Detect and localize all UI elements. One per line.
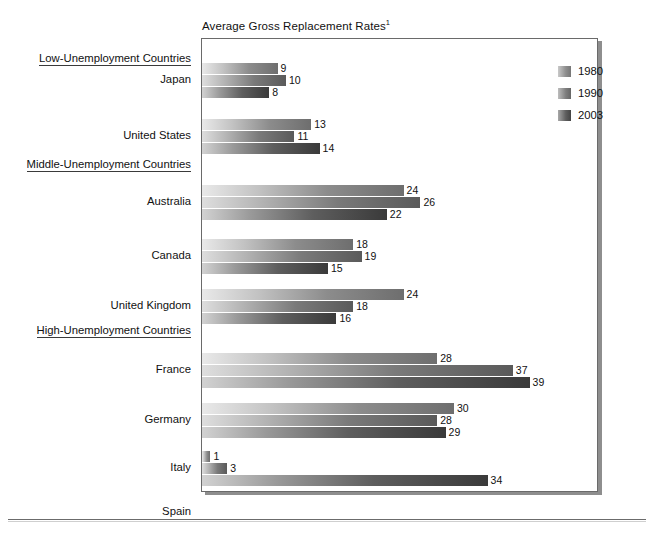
bar-value-germany-2003: 29 bbox=[446, 427, 461, 438]
bar-italy-2003 bbox=[202, 475, 488, 486]
category-label-canada: Canada bbox=[151, 249, 191, 261]
bar-value-italy-1980: 1 bbox=[210, 451, 219, 462]
bar-japan-1990 bbox=[202, 75, 286, 86]
bar-value-australia-2003: 22 bbox=[387, 209, 402, 220]
bar-value-france-1980: 28 bbox=[437, 353, 452, 364]
series-swatch-2003 bbox=[558, 110, 571, 121]
bar-germany-1980 bbox=[202, 403, 454, 414]
chart-legend: 198019902003 bbox=[558, 60, 630, 126]
bar-france-2003 bbox=[202, 377, 530, 388]
series-swatch-1990 bbox=[558, 88, 571, 99]
bar-united-states-1990 bbox=[202, 131, 294, 142]
bar-value-germany-1980: 30 bbox=[454, 403, 469, 414]
bar-value-germany-1990: 28 bbox=[437, 415, 452, 426]
chart-title: Average Gross Replacement Rates1 bbox=[202, 20, 390, 32]
group-label-2: Middle-Unemployment Countries bbox=[27, 158, 192, 172]
legend-item-1980[interactable]: 1980 bbox=[558, 60, 630, 82]
bar-value-italy-2003: 34 bbox=[488, 475, 503, 486]
bar-value-canada-1990: 19 bbox=[362, 251, 377, 262]
bar-canada-1980 bbox=[202, 239, 353, 250]
bar-italy-1990 bbox=[202, 463, 227, 474]
footer-divider-highlight bbox=[8, 521, 646, 522]
group-label-1: Low-Unemployment Countries bbox=[39, 52, 191, 66]
chart-title-text: Average Gross Replacement Rates bbox=[202, 20, 386, 32]
bar-united-states-2003 bbox=[202, 143, 320, 154]
bar-united-kingdom-1980 bbox=[202, 289, 404, 300]
bar-value-italy-1990: 3 bbox=[227, 463, 236, 474]
plot-area: 9108131114242622181915241816283739302829… bbox=[201, 38, 598, 492]
bar-france-1990 bbox=[202, 365, 513, 376]
bar-united-states-1980 bbox=[202, 119, 311, 130]
bar-value-france-2003: 39 bbox=[530, 377, 545, 388]
legend-item-2003[interactable]: 2003 bbox=[558, 104, 630, 126]
category-label-japan: Japan bbox=[160, 73, 191, 85]
legend-item-1990[interactable]: 1990 bbox=[558, 82, 630, 104]
bar-australia-1990 bbox=[202, 197, 420, 208]
bar-value-united-states-1980: 13 bbox=[311, 119, 326, 130]
bar-value-japan-1980: 9 bbox=[278, 63, 287, 74]
bar-canada-1990 bbox=[202, 251, 362, 262]
bar-value-united-kingdom-1990: 18 bbox=[353, 301, 368, 312]
bar-value-united-kingdom-2003: 16 bbox=[336, 313, 351, 324]
category-label-italy: Italy bbox=[170, 461, 191, 473]
chart-title-footnote-marker: 1 bbox=[386, 18, 390, 27]
bar-japan-1980 bbox=[202, 63, 278, 74]
category-label-column: Low-Unemployment CountriesMiddle-Unemplo… bbox=[0, 38, 196, 492]
bar-united-kingdom-1990 bbox=[202, 301, 353, 312]
bar-value-japan-1990: 10 bbox=[286, 75, 301, 86]
bar-united-kingdom-2003 bbox=[202, 313, 336, 324]
group-label-3: High-Unemployment Countries bbox=[37, 324, 191, 338]
bar-value-japan-2003: 8 bbox=[269, 87, 278, 98]
legend-label-1980: 1980 bbox=[578, 65, 603, 77]
category-label-france: France bbox=[156, 363, 191, 375]
bar-germany-1990 bbox=[202, 415, 437, 426]
chart-page: Average Gross Replacement Rates1 9108131… bbox=[0, 0, 654, 546]
bar-value-united-kingdom-1980: 24 bbox=[404, 289, 419, 300]
footer-divider bbox=[8, 519, 646, 520]
category-label-united-kingdom: United Kingdom bbox=[111, 299, 191, 311]
category-label-united-states: United States bbox=[123, 129, 191, 141]
bar-value-canada-2003: 15 bbox=[328, 263, 343, 274]
bar-canada-2003 bbox=[202, 263, 328, 274]
series-swatch-1980 bbox=[558, 66, 571, 77]
category-label-germany: Germany bbox=[145, 413, 191, 425]
bar-italy-1980 bbox=[202, 451, 210, 462]
bar-value-canada-1980: 18 bbox=[353, 239, 368, 250]
bar-value-australia-1990: 26 bbox=[420, 197, 435, 208]
bar-australia-1980 bbox=[202, 185, 404, 196]
bar-japan-2003 bbox=[202, 87, 269, 98]
legend-label-1990: 1990 bbox=[578, 87, 603, 99]
bar-value-australia-1980: 24 bbox=[404, 185, 419, 196]
bar-value-france-1990: 37 bbox=[513, 365, 528, 376]
category-label-australia: Australia bbox=[147, 195, 191, 207]
legend-label-2003: 2003 bbox=[578, 109, 603, 121]
category-label-spain: Spain bbox=[162, 505, 191, 517]
bar-australia-2003 bbox=[202, 209, 387, 220]
bar-france-1980 bbox=[202, 353, 437, 364]
bar-germany-2003 bbox=[202, 427, 446, 438]
bar-value-united-states-1990: 11 bbox=[294, 131, 308, 142]
bar-value-united-states-2003: 14 bbox=[320, 143, 335, 154]
